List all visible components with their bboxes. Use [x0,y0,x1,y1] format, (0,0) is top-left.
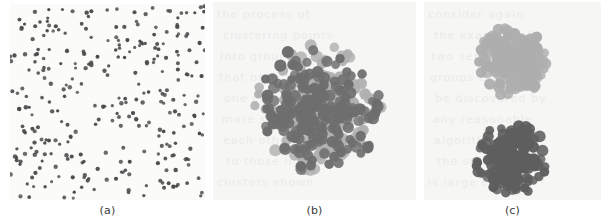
scatter-plot-c [424,2,601,200]
panel-caption-a: (a) [10,204,205,217]
scatter-panel-b: the process ofclustering pointsinto grou… [213,2,416,200]
figure-container: the process ofclustering pointsinto grou… [0,0,616,224]
scatter-plot-b [213,2,416,200]
scatter-panel-c: consider againthe example oftwo separate… [424,2,601,200]
panel-caption-b: (b) [213,204,416,217]
panel-caption-c: (c) [424,204,601,217]
scatter-panel-a [10,4,205,200]
scatter-plot-a [10,4,205,200]
